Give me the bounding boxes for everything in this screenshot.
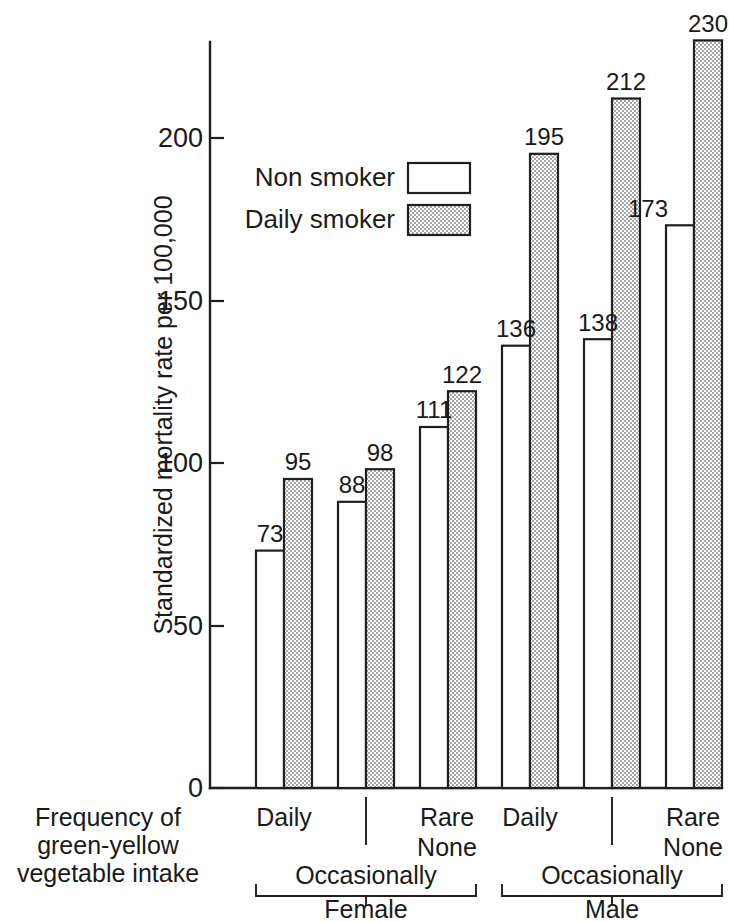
y-axis-ticks	[210, 138, 224, 788]
bar-male-occasionally-non-smoker	[584, 339, 612, 788]
x-cat-male-occasionally: Occasionally	[541, 861, 683, 889]
x-axis-title-line2: green-yellow	[37, 831, 180, 859]
bar-value-label: 122	[442, 361, 482, 388]
bar-chart: 200 150 100 50 0 Standardized mortality …	[0, 0, 729, 922]
legend-label-non-smoker: Non smoker	[255, 162, 395, 192]
x-cat-male-rare: Rare	[666, 803, 720, 831]
bar-value-label: 98	[367, 439, 394, 466]
x-group-male: Daily Rare None Occasionally Male	[502, 797, 723, 922]
x-cat-male-daily: Daily	[502, 803, 558, 831]
bar-value-label: 230	[688, 10, 728, 37]
bar-value-label: 195	[524, 123, 564, 150]
x-axis-title-line1: Frequency of	[35, 803, 181, 831]
chart-canvas: 200 150 100 50 0 Standardized mortality …	[0, 0, 729, 922]
legend: Non smoker Daily smoker	[245, 162, 470, 235]
bar-female-occasionally-non-smoker	[338, 502, 366, 788]
bar-value-label: 138	[578, 309, 618, 336]
x-group-female: Daily Rare None Occasionally Female	[256, 797, 477, 922]
bar-value-label: 95	[285, 448, 312, 475]
bar-female-rare-none-non-smoker	[420, 427, 448, 788]
bar-value-label: 88	[339, 471, 366, 498]
x-group-label-male: Male	[585, 895, 639, 922]
x-axis-title: Frequency of green-yellow vegetable inta…	[17, 803, 199, 887]
bar-value-label: 212	[606, 68, 646, 95]
bar-female-daily-daily-smoker	[284, 479, 312, 788]
bar-male-daily-non-smoker	[502, 346, 530, 788]
bar-value-label: 111	[416, 396, 452, 423]
y-axis-title: Standardized mortality rate per 100,000	[149, 195, 177, 634]
x-cat-female-none: None	[417, 833, 477, 861]
bar-male-rare-none-daily-smoker	[694, 40, 722, 788]
bar-female-rare-none-daily-smoker	[448, 391, 476, 788]
x-axis-title-line3: vegetable intake	[17, 859, 199, 887]
bar-male-rare-none-non-smoker	[666, 225, 694, 788]
bar-value-label: 173	[628, 195, 668, 222]
x-cat-female-daily: Daily	[256, 803, 312, 831]
bar-female-daily-non-smoker	[256, 551, 284, 788]
x-cat-female-occasionally: Occasionally	[295, 861, 437, 889]
y-tick-label-0: 0	[188, 773, 203, 803]
bar-female-occasionally-daily-smoker	[366, 469, 394, 788]
legend-swatch-non-smoker	[408, 163, 470, 193]
x-cat-female-rare: Rare	[420, 803, 474, 831]
x-cat-male-none: None	[663, 833, 723, 861]
x-group-label-female: Female	[324, 895, 407, 922]
bar-value-label: 136	[496, 315, 536, 342]
legend-label-daily-smoker: Daily smoker	[245, 204, 396, 234]
bar-value-label: 73	[257, 520, 284, 547]
y-tick-label-200: 200	[158, 123, 203, 153]
bar-male-daily-daily-smoker	[530, 154, 558, 788]
y-tick-label-50: 50	[173, 611, 203, 641]
legend-swatch-daily-smoker	[408, 205, 470, 235]
